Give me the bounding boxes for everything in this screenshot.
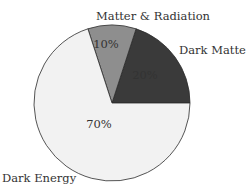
label-matter-radiation: Matter & Radiation: [96, 9, 211, 23]
pie-chart: Matter & Radiation Dark Matter Dark Ener…: [0, 0, 246, 194]
pct-dark-energy: 70%: [86, 117, 112, 131]
label-dark-energy: Dark Energy: [2, 171, 77, 185]
pct-matter-radiation: 10%: [93, 37, 119, 51]
label-dark-matter: Dark Matter: [179, 43, 246, 57]
pct-dark-matter: 20%: [132, 68, 158, 82]
